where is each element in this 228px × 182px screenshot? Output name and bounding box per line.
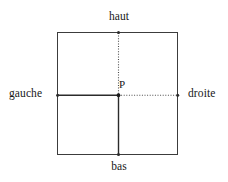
bottom-edge-marker-icon	[117, 153, 120, 156]
label-droite: droite	[188, 87, 215, 100]
center-point-marker-icon	[117, 93, 121, 97]
label-center-point-p: P	[119, 78, 125, 91]
diagram-canvas: haut bas gauche droite P	[0, 0, 228, 182]
right-edge-marker-icon	[176, 94, 179, 97]
label-bas: bas	[111, 160, 127, 173]
outer-square	[58, 33, 178, 155]
label-gauche: gauche	[9, 87, 42, 100]
label-haut: haut	[109, 10, 129, 23]
top-edge-marker-icon	[117, 31, 120, 34]
left-edge-marker-icon	[56, 94, 59, 97]
